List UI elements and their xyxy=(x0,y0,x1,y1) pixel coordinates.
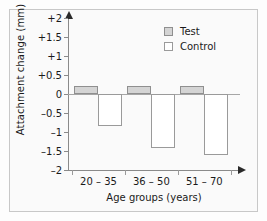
y-tick-label: +2 xyxy=(47,13,62,24)
y-tick-mark xyxy=(64,170,68,171)
x-axis-title: Age groups (years) xyxy=(68,192,240,203)
y-tick-label: +1 xyxy=(47,51,62,62)
chart-figure: Attachment change (mm) +2+1.5+1+0.50–0.5… xyxy=(0,0,267,221)
x-axis-line xyxy=(68,170,240,171)
bar-test-2 xyxy=(127,86,151,94)
y-tick-mark xyxy=(64,132,68,133)
bar-control-1 xyxy=(98,94,122,126)
chart-legend: TestControl xyxy=(164,24,216,54)
x-tick-mark xyxy=(178,170,179,175)
y-tick-mark xyxy=(64,18,68,19)
x-tick-label: 51 – 70 xyxy=(186,176,223,187)
y-tick-mark xyxy=(64,75,68,76)
y-tick-label: –2 xyxy=(51,165,62,176)
bar-control-2 xyxy=(151,94,175,148)
y-tick-label: 0 xyxy=(56,89,62,100)
y-tick-mark xyxy=(64,113,68,114)
y-tick-label: –0.5 xyxy=(41,108,62,119)
x-tick-mark xyxy=(72,170,73,175)
y-tick-mark xyxy=(64,94,68,95)
x-tick-mark xyxy=(231,170,232,175)
legend-swatch-icon xyxy=(164,42,173,51)
y-tick-label: –1 xyxy=(51,127,62,138)
y-tick-mark xyxy=(64,56,68,57)
legend-swatch-icon xyxy=(164,27,173,36)
y-tick-label: +0.5 xyxy=(38,70,62,81)
x-tick-mark xyxy=(125,170,126,175)
y-tick-mark xyxy=(64,151,68,152)
bar-test-3 xyxy=(180,86,204,94)
bar-test-1 xyxy=(74,86,98,94)
x-axis-arrow-icon xyxy=(238,166,246,174)
legend-label: Test xyxy=(180,26,200,37)
x-tick-label: 20 – 35 xyxy=(80,176,117,187)
y-tick-label: +1.5 xyxy=(38,32,62,43)
bar-control-3 xyxy=(204,94,228,155)
legend-item-test[interactable]: Test xyxy=(164,24,216,39)
y-tick-label: –1.5 xyxy=(41,146,62,157)
x-tick-label: 36 – 50 xyxy=(133,176,170,187)
y-axis-title: Attachment change (mm) xyxy=(15,0,26,140)
legend-label: Control xyxy=(180,41,216,52)
legend-item-control[interactable]: Control xyxy=(164,39,216,54)
y-tick-mark xyxy=(64,37,68,38)
